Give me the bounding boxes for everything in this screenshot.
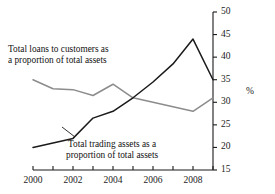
y-axis-tick-label: 35 xyxy=(221,75,231,85)
x-axis-tick-label: 2008 xyxy=(184,176,203,186)
x-axis-tick-label: 2002 xyxy=(64,176,83,186)
y-axis-tick-label: 25 xyxy=(221,120,231,130)
x-axis-tick-label: 2004 xyxy=(104,176,123,186)
series-line-loans-to-customers xyxy=(33,80,213,112)
y-axis-tick-label: 50 xyxy=(221,7,231,17)
annotation-loans-line-1: Total loans to customers as xyxy=(8,44,109,55)
annotation-leader-line xyxy=(62,127,75,137)
y-axis-tick-label: 15 xyxy=(221,165,231,175)
y-axis-tick-label: 45 xyxy=(221,30,231,40)
annotation-loans-to-customers: Total loans to customers as a proportion… xyxy=(8,44,109,67)
annotation-trading-line-1: Total trading assets as a xyxy=(66,139,158,150)
annotation-trading-line-2: proportion of total assets xyxy=(66,150,158,161)
line-chart: 1520253035404550 20002002200420062008 % … xyxy=(0,0,275,194)
x-axis-tick-label: 2000 xyxy=(24,176,43,186)
y-axis-ticks xyxy=(213,12,217,170)
y-axis-unit-label: % xyxy=(246,86,254,96)
y-axis-tick-label: 20 xyxy=(221,142,231,152)
x-axis-tick-label: 2006 xyxy=(144,176,163,186)
y-axis-tick-label: 30 xyxy=(221,97,231,107)
annotation-trading-assets: Total trading assets as a proportion of … xyxy=(66,139,158,162)
x-axis-ticks xyxy=(33,166,213,170)
y-axis-tick-label: 40 xyxy=(221,52,231,62)
annotation-loans-line-2: a proportion of total assets xyxy=(8,55,109,66)
chart-plot-area xyxy=(0,0,275,194)
